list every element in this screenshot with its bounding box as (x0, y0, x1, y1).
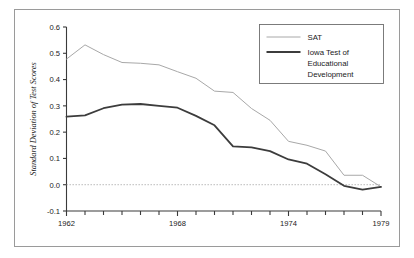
chart-legend: SATIowa Test ofEducationalDevelopment (260, 25, 384, 84)
y-axis-tick-labels: 0.60.50.40.30.20.10.0-0.1 (47, 23, 67, 216)
x-axis-tick-label: 1979 (373, 219, 390, 228)
y-axis-tick-label: 0.2 (49, 128, 60, 137)
y-axis-tick-label: 0.6 (49, 23, 60, 32)
y-axis-tick-label: 0.5 (49, 49, 60, 58)
x-axis-tick-label: 1962 (58, 219, 75, 228)
y-axis-tick-label: 0.3 (49, 102, 60, 111)
x-axis-tick-label: 1974 (280, 219, 297, 228)
series-line-iowa (67, 104, 382, 190)
y-axis-title: Standard Deviation of Test Scores (29, 62, 38, 176)
x-axis-tick-labels: 1962196819741979 (58, 211, 389, 228)
x-axis-tick-label: 1968 (169, 219, 186, 228)
y-axis-tick-label: 0.1 (49, 154, 60, 163)
y-axis-tick-label: 0.4 (49, 75, 60, 84)
legend-label-iowa-line1: Iowa Test of (308, 48, 350, 57)
legend-label-iowa-line2: Educational (308, 59, 349, 68)
legend-label-sat: SAT (308, 33, 323, 42)
y-axis-title-text: Standard Deviation of Test Scores (29, 62, 38, 176)
y-axis-tick-label: 0.0 (49, 181, 60, 190)
y-axis-tick-label: -0.1 (47, 207, 60, 216)
legend-label-iowa-line3: Development (308, 70, 355, 79)
figure-container: 0.60.50.40.30.20.10.0-0.1 19621968197419… (0, 0, 414, 258)
line-chart: 0.60.50.40.30.20.10.0-0.1 19621968197419… (0, 0, 414, 258)
